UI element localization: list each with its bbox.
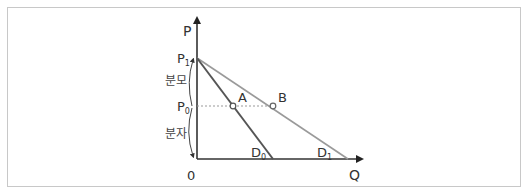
p1-subscript: 1 (185, 59, 190, 68)
price-label-p0: P0 (177, 100, 190, 116)
demand-diagram (0, 0, 529, 194)
d1-subscript: 1 (327, 153, 332, 162)
p0-name: P (177, 99, 185, 114)
price-label-p1: P1 (177, 52, 190, 68)
point-a-label: A (238, 91, 247, 104)
y-axis-label: P (183, 24, 191, 38)
x-axis-label: Q (349, 168, 360, 182)
d1-name: D (317, 145, 327, 160)
segment-label-denominator: 분모 (165, 75, 187, 87)
d0-subscript: 0 (261, 153, 266, 162)
point-b-marker (270, 103, 276, 109)
segment-label-numerator: 분자 (165, 128, 187, 140)
p0-subscript: 0 (185, 107, 190, 116)
curve-label-d0: D0 (251, 146, 266, 162)
point-a-marker (230, 103, 236, 109)
origin-label: 0 (187, 169, 195, 182)
point-b-label: B (278, 91, 287, 104)
d0-name: D (251, 145, 261, 160)
p1-name: P (177, 51, 185, 66)
curve-label-d1: D1 (317, 146, 332, 162)
